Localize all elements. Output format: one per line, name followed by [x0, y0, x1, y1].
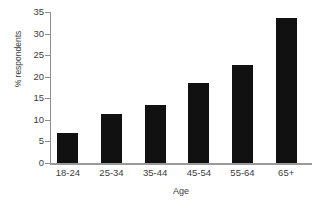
bar-55-64	[232, 65, 253, 163]
x-axis-tick-label-group: 18-2425-3435-4445-5455-6465+	[50, 167, 312, 181]
y-axis-tick-label: 5	[24, 136, 44, 146]
y-axis-tick-label-group: 05101520253035	[22, 0, 44, 208]
x-axis-tick-label: 25-34	[91, 167, 133, 179]
y-axis-tick-label: 10	[24, 115, 44, 125]
x-axis-line	[50, 163, 312, 165]
x-axis-tick-label: 55-64	[222, 167, 264, 179]
y-axis-tick-label: 35	[24, 7, 44, 17]
x-axis-tick-label: 45-54	[178, 167, 220, 179]
bar-65+	[276, 18, 297, 163]
bar-25-34	[101, 114, 122, 163]
x-axis-tick-label: 35-44	[134, 167, 176, 179]
y-axis-tick-mark	[45, 141, 50, 142]
y-axis-tick-mark	[45, 34, 50, 35]
y-axis-tick-mark	[45, 55, 50, 56]
y-axis-tick-mark	[45, 163, 50, 164]
x-axis-tick-label: 65+	[265, 167, 307, 179]
y-axis-tick-mark	[45, 98, 50, 99]
y-axis-tick-mark	[45, 120, 50, 121]
y-axis-tick-mark	[45, 12, 50, 13]
y-axis-tick-mark	[45, 77, 50, 78]
bar-45-54	[188, 83, 209, 163]
y-axis-tick-label: 30	[24, 29, 44, 39]
y-axis-tick-label: 0	[24, 158, 44, 168]
y-axis-tick-label: 15	[24, 93, 44, 103]
y-axis-tick-label: 20	[24, 72, 44, 82]
y-axis-tick-label: 25	[24, 50, 44, 60]
bar-chart-figure: % respondents 05101520253035 18-2425-343…	[0, 0, 325, 208]
x-axis-tick-label: 18-24	[47, 167, 89, 179]
plot-area	[50, 12, 312, 163]
x-axis-title: Age	[50, 186, 312, 197]
bar-18-24	[57, 133, 78, 163]
bar-35-44	[145, 105, 166, 163]
